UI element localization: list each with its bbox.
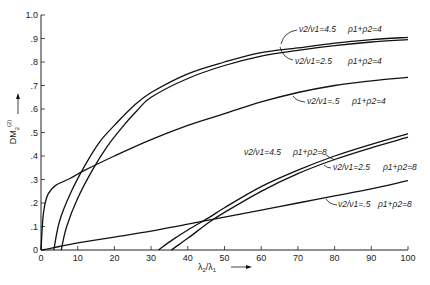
annotation-rho: ρ1+ρ2=8	[382, 162, 417, 172]
annotation-ratio: ν2/ν1=4.5	[244, 147, 281, 157]
annotation-ratio: ν2/ν1=2.5	[333, 162, 370, 172]
x-tick-label: 90	[366, 253, 376, 263]
x-tick-label: 70	[293, 253, 303, 263]
annotation-ratio: ν2/ν1=.5	[338, 199, 371, 209]
line-chart: 0.1.2.3.4.5.6.7.8.91.0 01020304050607080…	[0, 0, 430, 285]
y-tick-label: .5	[30, 128, 38, 138]
annotation-rho: ρ1+ρ2=8	[292, 147, 327, 157]
x-tick-label: 40	[183, 253, 193, 263]
annotation-rho: ρ1+ρ2=4	[347, 24, 382, 34]
y-tick-label: .6	[30, 104, 38, 114]
y-tick-label: .2	[30, 198, 38, 208]
svg-text:λ2/λ1: λ2/λ1	[198, 262, 217, 273]
axes	[41, 15, 408, 250]
annotation-ratio: ν2/ν1=4.5	[299, 24, 336, 34]
curve-line	[61, 40, 408, 250]
y-tick-label: .8	[30, 57, 38, 67]
annotation-ratio: ν2/ν1=.5	[307, 96, 340, 106]
curve-line	[171, 137, 408, 250]
y-axis-label: DM2(2)	[6, 120, 20, 145]
y-tick-label: .7	[30, 81, 38, 91]
x-axis-label: λ2/λ1	[198, 262, 252, 273]
curve-line	[54, 37, 408, 250]
svg-text:DM2(2): DM2(2)	[6, 120, 20, 145]
x-tick-label: 60	[256, 253, 266, 263]
annotation-rho: ρ1+ρ2=4	[347, 56, 382, 66]
annotation-rho: ρ1+ρ2=4	[351, 96, 386, 106]
x-tick-label: 30	[146, 253, 156, 263]
x-ticks: 0102030405060708090100	[38, 246, 415, 263]
x-tick-label: 0	[38, 253, 43, 263]
y-axis-arrow	[16, 93, 20, 114]
y-tick-label: .9	[30, 34, 38, 44]
annotation-rho: ρ1+ρ2=8	[377, 199, 412, 209]
curve-line	[41, 181, 408, 250]
x-tick-label: 20	[109, 253, 119, 263]
x-tick-label: 100	[400, 253, 415, 263]
y-tick-label: .3	[30, 175, 38, 185]
annotation-ratio: ν2/ν1=2.5	[295, 56, 332, 66]
y-tick-label: .1	[30, 222, 38, 232]
y-tick-label: .4	[30, 151, 38, 161]
y-ticks: 0.1.2.3.4.5.6.7.8.91.0	[25, 10, 45, 255]
x-tick-label: 50	[219, 253, 229, 263]
x-tick-label: 10	[73, 253, 83, 263]
y-tick-label: 0	[33, 245, 38, 255]
x-tick-label: 80	[330, 253, 340, 263]
curves	[41, 37, 408, 250]
y-tick-label: 1.0	[25, 10, 38, 20]
